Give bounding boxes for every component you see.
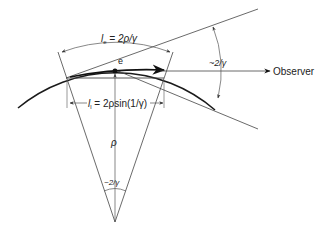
electron-dot — [113, 69, 118, 74]
synchrotron-diagram: le = 2ρ/γ ll = 2ρsin(1/γ) e ρ ~2/γ ~2/γ … — [0, 0, 316, 235]
radius-label: ρ — [110, 137, 117, 148]
chord-length-label: ll = 2ρsin(1/γ) — [88, 98, 147, 110]
observer-label: Observer — [273, 66, 315, 77]
cone-angle-label: ~2/γ — [209, 58, 227, 68]
radial-line-right — [115, 52, 173, 222]
center-angle-label: ~2/γ — [104, 178, 120, 187]
electron-label: e — [118, 56, 123, 66]
emission-length-label: le = 2ρ/γ — [101, 33, 138, 45]
